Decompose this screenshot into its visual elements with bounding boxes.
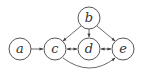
node-e-label: e xyxy=(119,41,127,56)
node-b: b xyxy=(78,7,100,29)
node-d-label: d xyxy=(85,41,93,56)
node-a-label: a xyxy=(16,41,24,56)
graph-diagram: a c d b e xyxy=(0,0,142,77)
edge-b-c xyxy=(63,26,81,41)
node-a: a xyxy=(9,38,31,60)
node-b-label: b xyxy=(85,10,93,25)
edge-b-e xyxy=(97,26,115,41)
node-c-label: c xyxy=(51,41,59,56)
node-c: c xyxy=(44,38,66,60)
node-e: e xyxy=(112,38,134,60)
node-d: d xyxy=(78,38,100,60)
